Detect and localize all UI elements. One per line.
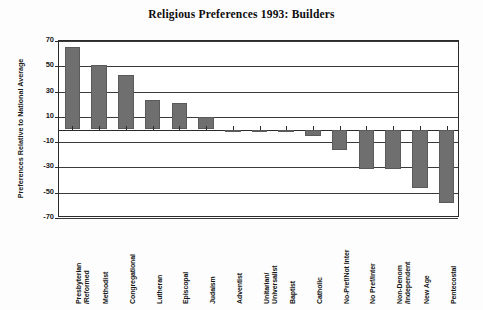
chart-figure: Religious Preferences 1993: Builders Pre…	[0, 0, 483, 310]
y-axis-tick-label: -70	[26, 212, 54, 221]
bar	[332, 130, 348, 150]
x-axis-tick-mark	[206, 126, 207, 130]
x-axis-tick-mark	[126, 126, 127, 130]
x-axis-tick-label-line: Congregational	[129, 254, 137, 304]
y-axis-tick-label: 10	[26, 111, 54, 120]
bar	[305, 130, 321, 136]
x-axis-tick-label: Judaism	[209, 276, 217, 304]
x-axis-tick-label-line: /Reformed	[83, 263, 91, 304]
x-axis-tick-label-line: Episcopal	[182, 272, 190, 304]
y-axis-tick-label: 50	[26, 60, 54, 69]
bar	[252, 130, 268, 132]
x-axis-tick-label-line: Adventist	[236, 273, 244, 304]
y-axis-tick-label: -30	[26, 161, 54, 170]
x-axis-tick-label: Adventist	[236, 273, 244, 304]
y-axis-tick-mark	[55, 193, 59, 194]
x-axis-tick-mark	[366, 126, 367, 130]
x-axis-tick-label-line: Non-Denom	[396, 262, 404, 304]
y-axis-tick-mark	[55, 167, 59, 168]
bar	[91, 65, 107, 129]
x-axis-tick-label-line: Lutheran	[156, 275, 164, 304]
x-axis-tick-label: Episcopal	[182, 272, 190, 304]
y-axis-tick-mark	[55, 41, 59, 42]
x-axis-tick-label: No Pref/Inter	[369, 263, 377, 304]
x-axis-tick-label-line: Baptist	[289, 281, 297, 304]
y-axis-tick-label: -10	[26, 136, 54, 145]
bar	[278, 130, 294, 133]
x-axis-tick-label: New Age	[423, 275, 431, 304]
bar	[225, 130, 241, 132]
x-axis-tick-label: Presbyterian/Reformed	[75, 263, 90, 304]
x-axis-tick-mark	[420, 126, 421, 130]
x-axis-tick-mark	[179, 126, 180, 130]
plot-area	[58, 40, 459, 217]
x-axis-tick-mark	[153, 126, 154, 130]
x-axis-tick-mark	[447, 126, 448, 130]
x-axis-tick-mark	[286, 126, 287, 130]
x-axis-tick-label-line: Pentecostal	[450, 266, 458, 304]
x-axis-tick-label-line: New Age	[423, 275, 431, 304]
bar	[359, 130, 375, 169]
x-axis-tick-label-line: Catholic	[316, 277, 324, 304]
x-axis-tick-label-line: No-Pref/Not Inter	[343, 250, 351, 304]
y-axis-tick-label: -50	[26, 187, 54, 196]
x-axis-tick-label: Baptist	[289, 281, 297, 304]
x-axis-tick-label: Unitarian/Universalist	[263, 266, 278, 305]
x-axis-tick-label: Congregational	[129, 254, 137, 304]
bar	[65, 47, 81, 129]
x-axis-tick-mark	[260, 126, 261, 130]
x-axis-tick-label: Pentecostal	[450, 266, 458, 304]
gridline	[59, 193, 458, 194]
x-axis-tick-mark	[313, 126, 314, 130]
chart-title: Religious Preferences 1993: Builders	[0, 8, 483, 20]
y-axis-tick-mark	[55, 92, 59, 93]
y-axis-tick-label: 30	[26, 86, 54, 95]
x-axis-tick-label: Methodist	[102, 272, 110, 304]
y-axis-tick-label: 70	[26, 35, 54, 44]
x-axis-tick-label-line: /Independent	[404, 262, 412, 304]
y-axis-tick-mark	[55, 142, 59, 143]
x-axis-tick-label-line: Presbyterian	[75, 263, 83, 304]
x-axis-tick-mark	[393, 126, 394, 130]
x-axis-tick-label-line: Judaism	[209, 276, 217, 304]
bar	[412, 130, 428, 188]
gridline	[59, 66, 458, 67]
x-axis-tick-label-line: No Pref/Inter	[369, 263, 377, 304]
x-axis-tick-label: Non-Denom/Independent	[396, 262, 411, 304]
gridline	[59, 41, 458, 42]
y-axis-tick-mark	[55, 66, 59, 67]
x-axis-tick-mark	[99, 126, 100, 130]
x-axis-tick-label: Catholic	[316, 277, 324, 304]
x-axis-tick-mark	[340, 126, 341, 130]
x-axis-tick-mark	[233, 126, 234, 130]
x-axis-tick-label-line: Universalist	[270, 266, 278, 305]
x-axis-tick-label: Lutheran	[156, 275, 164, 304]
x-axis-tick-labels: Presbyterian/ReformedMethodistCongregati…	[58, 218, 459, 306]
bar	[385, 130, 401, 169]
y-axis-tick-mark	[55, 117, 59, 118]
bar	[439, 130, 455, 203]
bar	[118, 75, 134, 129]
x-axis-tick-label-line: Methodist	[102, 272, 110, 304]
x-axis-tick-label-line: Unitarian/	[263, 266, 271, 305]
x-axis-tick-label: No-Pref/Not Inter	[343, 250, 351, 304]
x-axis-tick-mark	[72, 126, 73, 130]
